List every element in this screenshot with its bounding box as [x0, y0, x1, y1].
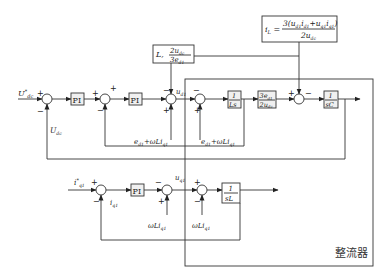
pi-controller-current-q: PI: [131, 184, 144, 196]
svg-text:−: −: [193, 86, 200, 95]
ff-q-inner-label: ωLiq1: [192, 222, 210, 231]
svg-text:−: −: [155, 178, 162, 187]
sum-junction-5: [294, 94, 304, 104]
svg-text:1: 1: [232, 92, 236, 100]
pi-controller-current-d: PI: [129, 93, 142, 105]
block-1-over-Ls: 1 Ls: [228, 91, 241, 109]
udc-ref-label: U*dc: [18, 88, 33, 99]
ff-d-outer-label: ed1+ωLiq1: [134, 138, 168, 147]
ff-d-inner-label: ed1+ωLiq1: [201, 138, 235, 147]
sum-junction-4: [195, 94, 205, 104]
block-1-over-sL: 1 sL: [222, 183, 240, 203]
svg-text:−: −: [163, 86, 170, 95]
svg-text:sC: sC: [326, 101, 334, 109]
block-power-gain: 3ed1 2udc: [258, 91, 276, 109]
svg-text:PI: PI: [73, 96, 82, 105]
control-block-diagram: 整流器 iL = 3(ud1id1+uq1iq1) 2udc L, 2udc 3…: [0, 0, 387, 278]
svg-text:+: +: [163, 106, 170, 115]
svg-text:−: −: [97, 106, 104, 115]
svg-text:−: −: [93, 197, 100, 206]
iq-feedback-line: [101, 195, 240, 240]
ff-q-outer-label: ωLiq1: [148, 222, 166, 231]
svg-text:+: +: [158, 197, 165, 206]
svg-text:Ls: Ls: [228, 101, 237, 109]
svg-text:+: +: [91, 178, 98, 187]
pi-controller-voltage: PI: [71, 93, 84, 105]
gain-box: L, 2udc 3ed1: [153, 45, 194, 65]
svg-text:−: −: [305, 89, 312, 98]
sum-junction-q2: [162, 185, 172, 195]
iq-ref-label: i*q1: [74, 177, 85, 188]
svg-text:iL =: iL =: [265, 25, 280, 35]
rectifier-label: 整流器: [335, 246, 368, 260]
svg-text:+: +: [194, 178, 201, 187]
svg-text:+: +: [37, 89, 44, 98]
svg-text:−: −: [37, 107, 44, 116]
svg-text:sL: sL: [225, 195, 234, 203]
svg-text:1: 1: [329, 92, 333, 100]
svg-text:+: +: [92, 89, 99, 98]
svg-text:PI: PI: [131, 96, 140, 105]
svg-text:−: −: [194, 197, 201, 206]
load-current-formula-box: iL = 3(ud1id1+uq1iq1) 2udc: [262, 16, 337, 42]
block-1-over-sC: 1 sC: [324, 91, 338, 109]
sum-junction-3: [166, 94, 176, 104]
udc-feedback-label: Udc: [50, 126, 62, 136]
svg-text:+: +: [110, 84, 117, 93]
sum-junction-2: [100, 94, 110, 104]
svg-text:L,: L,: [155, 50, 164, 59]
uq1-label: uq1: [175, 174, 185, 183]
svg-text:1: 1: [229, 185, 233, 193]
svg-text:+: +: [288, 89, 295, 98]
svg-text:PI: PI: [133, 187, 142, 196]
iq-feedback-label: iq1: [110, 199, 118, 208]
